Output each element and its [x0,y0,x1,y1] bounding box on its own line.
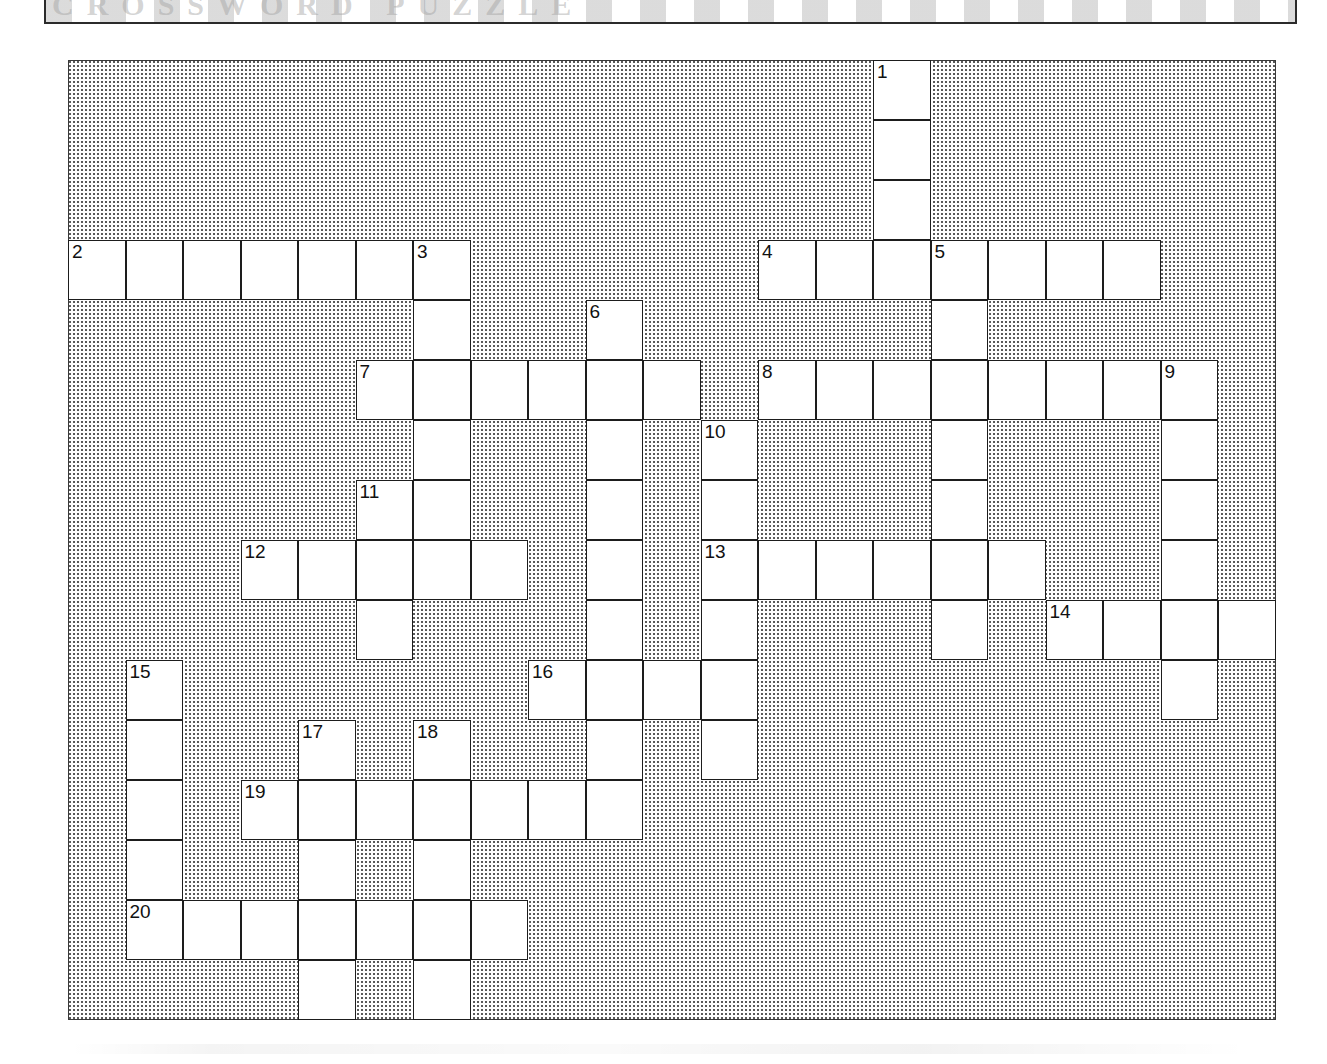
crossword-cell[interactable] [413,840,471,900]
crossword-cell[interactable] [1103,360,1161,420]
crossword-cell[interactable] [413,300,471,360]
crossword-cell-numbered-6[interactable]: 6 [586,300,644,360]
crossword-cell[interactable] [356,240,414,300]
crossword-cell[interactable] [1218,600,1276,660]
crossword-cell[interactable] [528,780,586,840]
crossword-cell[interactable] [413,420,471,480]
crossword-cell-numbered-5[interactable]: 5 [931,240,989,300]
crossword-cell[interactable] [471,540,529,600]
crossword-cell-numbered-10[interactable]: 10 [701,420,759,480]
crossword-cell[interactable] [356,600,414,660]
crossword-cell[interactable] [241,240,299,300]
crossword-cell[interactable] [988,540,1046,600]
decorative-banner-strip: CROSSWORD PUZZLE [44,0,1297,24]
crossword-cell-numbered-4[interactable]: 4 [758,240,816,300]
crossword-cell[interactable] [1161,420,1219,480]
crossword-cell[interactable] [183,240,241,300]
crossword-cell-numbered-20[interactable]: 20 [126,900,184,960]
crossword-cell[interactable] [758,540,816,600]
crossword-cell[interactable] [413,960,471,1020]
crossword-cell[interactable] [931,540,989,600]
crossword-cell[interactable] [298,900,356,960]
crossword-cell[interactable] [873,240,931,300]
crossword-cell[interactable] [1161,660,1219,720]
crossword-cell[interactable] [298,780,356,840]
crossword-cell[interactable] [643,660,701,720]
crossword-cell[interactable] [413,480,471,540]
crossword-cell[interactable] [356,540,414,600]
crossword-cell-numbered-2[interactable]: 2 [68,240,126,300]
crossword-cell[interactable] [1046,240,1104,300]
crossword-cell[interactable] [413,900,471,960]
crossword-cell[interactable] [528,360,586,420]
crossword-cell[interactable] [298,540,356,600]
crossword-cell[interactable] [873,180,931,240]
crossword-cell[interactable] [931,300,989,360]
crossword-cell[interactable] [471,900,529,960]
crossword-cell[interactable] [1046,360,1104,420]
crossword-cell[interactable] [126,720,184,780]
crossword-cell[interactable] [1161,600,1219,660]
crossword-cell[interactable] [413,540,471,600]
crossword-cell-numbered-3[interactable]: 3 [413,240,471,300]
crossword-cell-numbered-19[interactable]: 19 [241,780,299,840]
crossword-cell-numbered-17[interactable]: 17 [298,720,356,780]
crossword-cell[interactable] [643,360,701,420]
crossword-cell[interactable] [298,240,356,300]
crossword-cell[interactable] [586,720,644,780]
crossword-cell[interactable] [873,540,931,600]
crossword-cell[interactable] [126,240,184,300]
crossword-cell[interactable] [471,780,529,840]
clue-number-8: 8 [762,361,773,382]
crossword-cell-numbered-18[interactable]: 18 [413,720,471,780]
crossword-cell[interactable] [1103,240,1161,300]
crossword-cell-numbered-12[interactable]: 12 [241,540,299,600]
crossword-cell[interactable] [816,240,874,300]
crossword-cell-numbered-16[interactable]: 16 [528,660,586,720]
crossword-cell[interactable] [873,120,931,180]
crossword-cell[interactable] [586,360,644,420]
crossword-cell[interactable] [413,780,471,840]
crossword-cell[interactable] [298,840,356,900]
crossword-cell[interactable] [931,360,989,420]
crossword-cell-numbered-9[interactable]: 9 [1161,360,1219,420]
crossword-cell-numbered-15[interactable]: 15 [126,660,184,720]
crossword-cell[interactable] [1161,540,1219,600]
crossword-cell[interactable] [701,480,759,540]
crossword-cell-numbered-14[interactable]: 14 [1046,600,1104,660]
crossword-cell[interactable] [356,780,414,840]
crossword-cell[interactable] [413,360,471,420]
crossword-cell[interactable] [816,540,874,600]
crossword-cell[interactable] [586,480,644,540]
crossword-cell-numbered-13[interactable]: 13 [701,540,759,600]
crossword-cell[interactable] [931,480,989,540]
crossword-cell[interactable] [586,540,644,600]
crossword-cell[interactable] [586,420,644,480]
crossword-cell[interactable] [931,420,989,480]
crossword-cell[interactable] [126,780,184,840]
crossword-cell[interactable] [701,720,759,780]
crossword-cell-numbered-1[interactable]: 1 [873,60,931,120]
crossword-cell-numbered-11[interactable]: 11 [356,480,414,540]
crossword-cell[interactable] [586,780,644,840]
crossword-cell[interactable] [701,600,759,660]
crossword-cell[interactable] [126,840,184,900]
crossword-cell-numbered-8[interactable]: 8 [758,360,816,420]
crossword-cell[interactable] [816,360,874,420]
crossword-cell[interactable] [701,660,759,720]
crossword-cell[interactable] [1161,480,1219,540]
crossword-grid[interactable]: 1234567891011121314151617181920 [68,60,1276,1020]
crossword-cell[interactable] [931,600,989,660]
crossword-cell[interactable] [586,660,644,720]
crossword-cell[interactable] [241,900,299,960]
crossword-cell[interactable] [471,360,529,420]
crossword-cell[interactable] [298,960,356,1020]
crossword-cell-numbered-7[interactable]: 7 [356,360,414,420]
crossword-cell[interactable] [356,900,414,960]
crossword-cell[interactable] [183,900,241,960]
crossword-cell[interactable] [1103,600,1161,660]
crossword-cell[interactable] [988,360,1046,420]
crossword-cell[interactable] [988,240,1046,300]
crossword-cell[interactable] [586,600,644,660]
crossword-cell[interactable] [873,360,931,420]
